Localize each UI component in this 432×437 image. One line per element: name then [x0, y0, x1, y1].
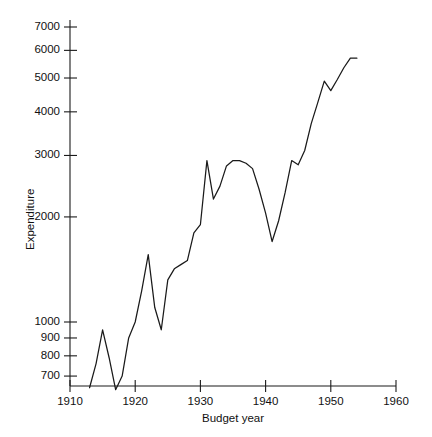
y-tick-label: 4000 — [8, 106, 60, 118]
expenditure-line — [90, 58, 357, 390]
x-tick-label: 1940 — [236, 396, 296, 408]
x-axis-label: Budget year — [173, 412, 293, 424]
y-tick-label: 5000 — [8, 72, 60, 84]
y-tick-label: 900 — [8, 332, 60, 344]
y-axis-label: Expenditure — [24, 189, 36, 250]
y-tick-label: 800 — [8, 350, 60, 362]
x-tick-label: 1950 — [301, 396, 361, 408]
chart-canvas — [0, 0, 432, 437]
y-tick-label: 3000 — [8, 149, 60, 161]
x-tick-label: 1930 — [170, 396, 230, 408]
x-tick-label: 1960 — [366, 396, 426, 408]
figure: 7008009001000200030004000500060007000 19… — [0, 0, 432, 437]
x-tick-label: 1920 — [105, 396, 165, 408]
y-tick-label: 6000 — [8, 44, 60, 56]
axis-lines — [70, 20, 396, 386]
y-tick-label: 1000 — [8, 316, 60, 328]
y-tick-label: 700 — [8, 370, 60, 382]
y-tick-label: 7000 — [8, 21, 60, 33]
x-tick-label: 1910 — [40, 396, 100, 408]
